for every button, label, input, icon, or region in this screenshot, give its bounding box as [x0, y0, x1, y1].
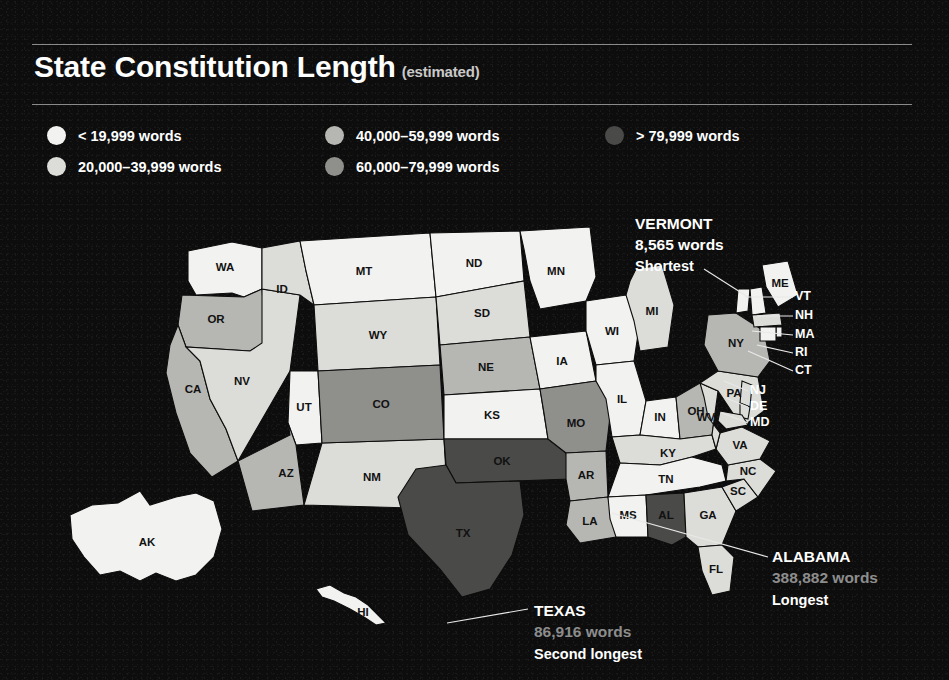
callout-vermont: VERMONT 8,565 words Shortest — [635, 213, 724, 277]
leader-line-texas — [447, 609, 528, 623]
state-nh[interactable] — [750, 287, 766, 315]
state-label-wa: WA — [216, 261, 235, 273]
page-title-text: State Constitution Length — [34, 50, 396, 83]
state-label-nm: NM — [363, 471, 381, 483]
state-ct[interactable] — [760, 327, 776, 341]
state-label-ks: KS — [484, 409, 500, 421]
state-ma[interactable] — [752, 313, 782, 327]
state-hi[interactable] — [316, 585, 386, 625]
state-label-nv: NV — [234, 375, 250, 387]
state-label-id: ID — [276, 283, 288, 295]
state-label-or: OR — [207, 313, 225, 325]
state-label-mo: MO — [567, 417, 586, 429]
ne-label-nh: NH — [795, 308, 813, 322]
legend-label-bin4: 60,000–79,999 words — [356, 159, 500, 175]
state-label-mi: MI — [646, 305, 659, 317]
header-bottom-rule — [32, 104, 912, 105]
legend-label-bin2: 20,000–39,999 words — [78, 159, 222, 175]
legend-item-bin5: > 79,999 words — [605, 120, 740, 151]
legend-swatch-bin3 — [325, 126, 344, 145]
legend-label-bin3: 40,000–59,999 words — [356, 128, 500, 144]
header-top-rule — [32, 44, 912, 45]
page-title: State Constitution Length(estimated) — [34, 50, 479, 84]
callout-vermont-name: VERMONT — [635, 213, 724, 234]
legend-swatch-bin1 — [47, 126, 66, 145]
legend-column-2: 40,000–59,999 words 60,000–79,999 words — [325, 120, 500, 182]
state-label-il: IL — [617, 393, 627, 405]
legend-column-3: > 79,999 words — [605, 120, 740, 151]
state-label-fl: FL — [709, 563, 723, 575]
callout-alabama: ALABAMA 388,882 words Longest — [772, 546, 878, 611]
state-label-ok: OK — [493, 455, 511, 467]
state-label-co: CO — [372, 398, 389, 410]
state-label-va: VA — [732, 439, 747, 451]
callout-texas-words: 86,916 words — [534, 621, 642, 643]
state-label-ar: AR — [578, 469, 595, 481]
legend-item-bin3: 40,000–59,999 words — [325, 120, 500, 151]
state-label-tn: TN — [658, 473, 673, 485]
state-label-mn: MN — [547, 265, 565, 277]
state-label-az: AZ — [278, 467, 293, 479]
state-label-sc: SC — [730, 485, 746, 497]
state-label-ny: NY — [728, 337, 744, 349]
ne-label-nj: NJ — [750, 383, 766, 397]
state-shapes — [70, 227, 798, 625]
state-label-al: AL — [658, 509, 673, 521]
callout-texas-rank: Second longest — [534, 643, 642, 665]
page-title-qualifier: (estimated) — [402, 63, 480, 80]
state-label-hi: HI — [357, 606, 369, 618]
state-label-la: LA — [582, 515, 597, 527]
state-label-sd: SD — [474, 307, 490, 319]
state-label-ia: IA — [556, 355, 568, 367]
state-label-wi: WI — [605, 325, 619, 337]
legend-item-bin2: 20,000–39,999 words — [47, 151, 222, 182]
state-label-mt: MT — [356, 265, 373, 277]
state-label-ne: NE — [478, 361, 494, 373]
ne-label-ct: CT — [795, 363, 812, 377]
state-label-wv: WV — [697, 411, 716, 423]
state-label-nc: NC — [740, 465, 757, 477]
ne-label-ri: RI — [795, 345, 808, 359]
legend-label-bin1: < 19,999 words — [78, 128, 182, 144]
legend-column-1: < 19,999 words 20,000–39,999 words — [47, 120, 222, 182]
callout-vermont-words: 8,565 words — [635, 234, 724, 255]
state-label-ga: GA — [699, 509, 716, 521]
state-label-ut: UT — [296, 401, 311, 413]
ne-label-vt: VT — [795, 289, 811, 303]
callout-alabama-words: 388,882 words — [772, 567, 878, 589]
legend-item-bin4: 60,000–79,999 words — [325, 151, 500, 182]
ne-label-md: MD — [750, 415, 769, 429]
legend-label-bin5: > 79,999 words — [636, 128, 740, 144]
callout-texas: TEXAS 86,916 words Second longest — [534, 600, 642, 665]
legend-swatch-bin5 — [605, 126, 624, 145]
state-vt[interactable] — [736, 289, 750, 313]
infographic-canvas: State Constitution Length(estimated) < 1… — [0, 0, 949, 680]
state-label-me: ME — [771, 277, 789, 289]
callout-alabama-rank: Longest — [772, 589, 878, 611]
state-ri[interactable] — [776, 327, 782, 337]
state-label-nd: ND — [466, 257, 483, 269]
ne-label-ma: MA — [795, 327, 814, 341]
state-label-ca: CA — [185, 383, 202, 395]
state-label-in: IN — [654, 411, 666, 423]
state-label-ak: AK — [139, 536, 156, 548]
state-label-pa: PA — [726, 387, 741, 399]
legend-swatch-bin2 — [47, 157, 66, 176]
legend-item-bin1: < 19,999 words — [47, 120, 222, 151]
callout-vermont-rank: Shortest — [635, 255, 724, 277]
state-label-wy: WY — [369, 329, 388, 341]
ne-label-de: DE — [750, 399, 767, 413]
state-label-ky: KY — [660, 447, 676, 459]
state-label-tx: TX — [456, 527, 471, 539]
callout-texas-name: TEXAS — [534, 600, 642, 621]
callout-alabama-name: ALABAMA — [772, 546, 878, 567]
legend-swatch-bin4 — [325, 157, 344, 176]
